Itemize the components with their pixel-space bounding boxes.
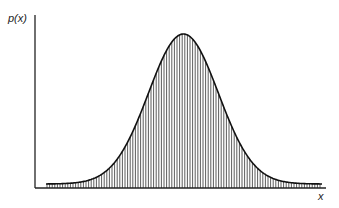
y-axis-label: p(x) xyxy=(8,12,27,24)
x-axis-label: x xyxy=(318,190,324,202)
gaussian-chart xyxy=(0,0,339,208)
density-curve xyxy=(46,34,322,184)
hatch-fill xyxy=(47,34,320,188)
